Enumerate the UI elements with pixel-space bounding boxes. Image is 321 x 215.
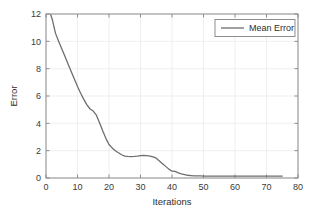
y-tick-label: 12 bbox=[31, 9, 41, 19]
chart-legend: Mean Error bbox=[215, 20, 295, 37]
x-tick-label: 70 bbox=[261, 182, 271, 192]
y-tick-label: 10 bbox=[31, 37, 41, 47]
y-tick-label: 2 bbox=[36, 146, 41, 156]
y-tick-label: 0 bbox=[36, 173, 41, 183]
x-tick-label: 10 bbox=[72, 182, 82, 192]
x-tick-label: 50 bbox=[198, 182, 208, 192]
y-axis-tick-labels: 024681012 bbox=[31, 9, 41, 183]
x-axis-title: Iterations bbox=[152, 196, 191, 207]
line-chart-svg: 01020304050607080 024681012 Iterations E… bbox=[0, 0, 321, 215]
y-axis-title: Error bbox=[8, 85, 19, 106]
x-tick-label: 80 bbox=[293, 182, 303, 192]
legend-label-mean-error: Mean Error bbox=[249, 23, 294, 33]
x-tick-label: 0 bbox=[43, 182, 48, 192]
x-tick-label: 20 bbox=[104, 182, 114, 192]
x-tick-label: 30 bbox=[135, 182, 145, 192]
x-tick-label: 60 bbox=[230, 182, 240, 192]
x-tick-label: 40 bbox=[167, 182, 177, 192]
chart-figure: 01020304050607080 024681012 Iterations E… bbox=[0, 0, 321, 215]
y-tick-label: 6 bbox=[36, 91, 41, 101]
y-tick-label: 4 bbox=[36, 119, 41, 129]
y-tick-label: 8 bbox=[36, 64, 41, 74]
x-axis-tick-labels: 01020304050607080 bbox=[43, 182, 303, 192]
